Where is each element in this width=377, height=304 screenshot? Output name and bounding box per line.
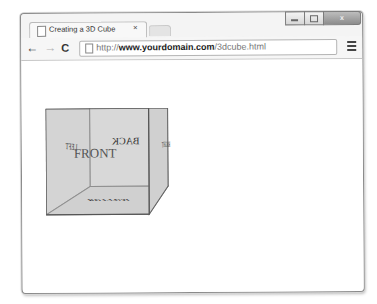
cube-face-right: RIGHT [162,140,171,149]
tab-title: Creating a 3D Cube [49,24,115,33]
window-controls: x [286,11,361,24]
url-host: www.yourdomain.com [119,42,215,53]
url-prefix: http:// [96,42,119,52]
maximize-button[interactable] [304,11,324,25]
menu-icon[interactable] [347,41,356,53]
page-icon [85,44,93,54]
cube-face-bottom: BOTTOM [86,198,133,201]
tab-strip: Creating a 3D Cube × x [21,12,362,38]
url-text[interactable]: http://www.yourdomain.com/3dcube.html [96,41,266,52]
url-path: /3dcube.html [214,41,266,51]
page-icon [37,26,46,37]
forward-arrow-icon[interactable]: → [44,42,56,54]
cube-face-front: FRONT [74,145,117,161]
tab-creating-3d-cube[interactable]: Creating a 3D Cube × [29,21,147,39]
address-bar[interactable]: http://www.yourdomain.com/3dcube.html [79,39,337,57]
cube-drawing [46,108,170,219]
3d-cube: BACK LEFT FRONT RIGHT BOTTOM [46,108,170,219]
reload-icon[interactable]: C [61,42,69,54]
page-content: BACK LEFT FRONT RIGHT BOTTOM [21,59,363,293]
new-tab-button[interactable] [149,25,171,36]
browser-window: Creating a 3D Cube × x ← → C http://www.… [20,11,365,294]
minimize-button[interactable] [285,11,305,25]
tab-close-icon[interactable]: × [133,23,138,32]
back-arrow-icon[interactable]: ← [26,42,38,54]
browser-toolbar: ← → C http://www.yourdomain.com/3dcube.h… [21,36,362,61]
close-window-button[interactable]: x [323,11,361,25]
